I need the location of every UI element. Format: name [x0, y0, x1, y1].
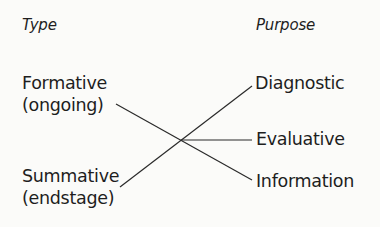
purpose-heading: Purpose — [256, 18, 315, 33]
information-label: Information — [256, 173, 354, 191]
formative-to-information-line — [116, 104, 252, 180]
formative-label: Formative — [22, 75, 107, 93]
type-heading: Type — [22, 18, 57, 33]
summative-to-diagnostic-line — [120, 86, 252, 187]
evaluative-label: Evaluative — [256, 131, 345, 149]
formative-sublabel: (ongoing) — [22, 97, 104, 115]
summative-label: Summative — [22, 168, 119, 186]
type-purpose-diagram: Type Purpose Formative (ongoing) Summati… — [0, 0, 380, 227]
summative-sublabel: (endstage) — [22, 190, 114, 208]
diagnostic-label: Diagnostic — [255, 75, 344, 93]
